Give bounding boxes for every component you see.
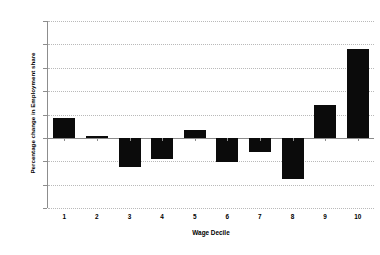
bar [53,118,75,138]
y-axis-tick-mark [43,44,47,45]
y-axis-tick-mark [43,91,47,92]
x-axis-tick-label: 8 [278,213,308,220]
y-axis-tick-mark [43,161,47,162]
plot-area [48,21,374,208]
bar [151,138,173,159]
x-axis-tick-label: 9 [310,213,340,220]
y-axis-tick-mark [43,115,47,116]
x-axis-tick-label: 5 [180,213,210,220]
gridline [48,68,374,69]
y-axis-tick-mark [43,21,47,22]
bar [119,138,141,167]
x-axis-tick-mark [162,138,163,141]
gridline [48,208,374,209]
x-axis-tick-mark [64,138,65,141]
x-axis-tick-label: 2 [82,213,112,220]
x-axis-tick-mark [227,138,228,141]
x-axis-tick-mark [293,138,294,141]
bar [184,130,206,138]
x-axis-tick-label: 6 [212,213,242,220]
bar [216,138,238,163]
y-axis-tick-mark [43,208,47,209]
gridline [48,161,374,162]
x-axis-tick-label: 4 [147,213,177,220]
y-axis-title: Percentage change in Employment share [26,18,40,208]
y-axis-tick-mark [43,138,47,139]
x-axis-tick-mark [358,138,359,141]
x-axis-tick-mark [130,138,131,141]
bar [314,105,336,138]
bar [282,138,304,179]
gridline [48,91,374,92]
x-axis-tick-label: 10 [343,213,373,220]
y-axis-tick-mark [43,185,47,186]
x-axis-tick-label: 3 [115,213,145,220]
x-axis-tick-mark [195,138,196,141]
bar-chart-figure: Percentage change in Employment share 10… [0,0,380,255]
x-axis-tick-mark [97,138,98,141]
y-axis-tick-mark [43,68,47,69]
x-axis-tick-mark [260,138,261,141]
x-axis-title: Wage Decile [48,229,374,236]
x-axis-tick-label: 7 [245,213,275,220]
x-axis-tick-mark [325,138,326,141]
bar [347,49,369,138]
x-axis-tick-label: 1 [49,213,79,220]
gridline [48,185,374,186]
gridline [48,44,374,45]
gridline [48,21,374,22]
